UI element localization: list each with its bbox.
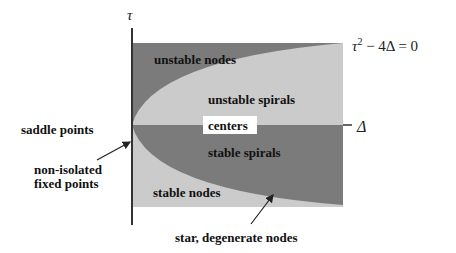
stable-spirals-label: stable spirals [208, 145, 281, 160]
equation-rest: − 4Δ = 0 [362, 38, 418, 54]
delta-axis-label: Δ [356, 118, 366, 135]
tau-axis-label: τ [127, 7, 133, 23]
non-isolated-arrow [97, 142, 130, 160]
centers-label: centers [208, 118, 248, 133]
stability-diagram: τ Δ τ2 − 4Δ = 0 unstable nodes unstable … [0, 0, 456, 253]
unstable-nodes-label: unstable nodes [154, 52, 236, 67]
star-degenerate-label: star, degenerate nodes [175, 230, 298, 245]
non-isolated-label-line1: non-isolated [34, 162, 103, 177]
stable-nodes-label: stable nodes [153, 185, 221, 200]
non-isolated-label-line2: fixed points [34, 176, 99, 191]
unstable-spirals-label: unstable spirals [208, 92, 295, 107]
parabola-equation: τ2 − 4Δ = 0 [352, 36, 418, 54]
saddle-points-label: saddle points [21, 122, 94, 137]
